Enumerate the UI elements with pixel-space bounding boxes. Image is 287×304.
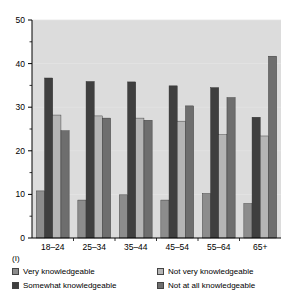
x-tick-label: 55–64 (207, 242, 231, 250)
legend-label: Not very knowledgeable (168, 267, 253, 276)
y-tick-label: 0 (20, 233, 25, 243)
bar (61, 131, 69, 238)
x-tick-label: 25–34 (82, 242, 106, 250)
legend-item-very-knowledgeable: Very knowledgeable (12, 267, 157, 276)
bar (94, 116, 102, 238)
bar (161, 200, 169, 238)
bar (211, 88, 219, 238)
y-tick-label: 20 (16, 146, 26, 156)
legend-swatch-icon (12, 268, 19, 275)
legend-item-not-at-all-knowledgeable: Not at all knowledgeable (157, 281, 287, 290)
y-tick-label: 40 (16, 59, 26, 69)
bar (268, 56, 276, 238)
bar (169, 86, 177, 238)
bar (244, 204, 252, 238)
x-tick-label: 35–44 (124, 242, 148, 250)
bar (102, 118, 110, 238)
legend-row: Somewhat knowledgeable Not at all knowle… (0, 279, 287, 291)
bar (78, 200, 86, 238)
bar (86, 81, 94, 238)
legend-row: Very knowledgeable Not very knowledgeabl… (0, 265, 287, 277)
legend-item-somewhat-knowledgeable: Somewhat knowledgeable (12, 281, 157, 290)
legend-swatch-icon (157, 268, 164, 275)
bar (202, 194, 210, 238)
bar (185, 106, 193, 238)
chart-plot-area: 0102030405018–2425–3435–4445–5455–6465+(… (0, 0, 287, 250)
bar (144, 120, 152, 238)
x-tick-label: 45–54 (165, 242, 189, 250)
bar (45, 78, 53, 238)
bar (252, 117, 260, 238)
bar (227, 98, 235, 238)
legend-swatch-icon (12, 282, 19, 289)
bar (219, 135, 227, 238)
panel-label-i: (I) (12, 254, 20, 263)
figure: 0102030405018–2425–3435–4445–5455–6465+(… (0, 0, 287, 304)
bar-chart: 0102030405018–2425–3435–4445–5455–6465+(… (0, 0, 287, 250)
x-tick-label: 18–24 (41, 242, 65, 250)
bar (128, 82, 136, 238)
y-tick-label: 50 (16, 15, 26, 25)
chart-legend: (I) Very knowledgeable Not very knowledg… (0, 254, 287, 304)
y-tick-label: 10 (16, 189, 26, 199)
y-tick-label: 30 (16, 102, 26, 112)
legend-item-not-very-knowledgeable: Not very knowledgeable (157, 267, 287, 276)
bar (177, 121, 185, 238)
bar (53, 115, 61, 238)
legend-label: Very knowledgeable (23, 267, 95, 276)
legend-swatch-icon (157, 282, 164, 289)
bar (36, 191, 44, 238)
bar (136, 118, 144, 238)
legend-label: Not at all knowledgeable (168, 281, 255, 290)
bar (119, 195, 127, 238)
legend-label: Somewhat knowledgeable (23, 281, 116, 290)
bar (260, 136, 268, 238)
x-tick-label: 65+ (253, 242, 267, 250)
